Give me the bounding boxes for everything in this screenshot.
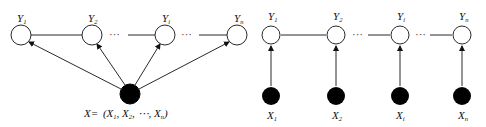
node-r-xn xyxy=(453,87,471,105)
ellipsis-2: ··· xyxy=(181,28,192,40)
label-r-xn: Xn xyxy=(457,109,468,122)
arrow-x-yi xyxy=(135,44,160,85)
arrow-x-yn xyxy=(139,42,229,89)
label-r-x1: X1 xyxy=(266,109,277,122)
label-r-y1: Y1 xyxy=(268,10,277,23)
node-r-x2 xyxy=(327,87,345,105)
label-yn: Yn xyxy=(234,12,243,25)
ellipsis-r-2: ··· xyxy=(415,28,426,40)
label-r-yi: Yi xyxy=(397,10,405,23)
node-r-y2 xyxy=(327,26,345,44)
node-x xyxy=(120,84,140,104)
arrow-x-y1 xyxy=(29,42,121,89)
node-r-xi xyxy=(391,87,409,105)
label-r-x2: X2 xyxy=(331,109,343,122)
node-r-y1 xyxy=(262,26,280,44)
node-yi xyxy=(155,25,175,45)
label-x-formula: X= (X1, X2, ⋯, Xn) xyxy=(83,107,168,120)
label-r-yn: Yn xyxy=(459,10,468,23)
label-r-xi: Xi xyxy=(395,109,405,122)
ellipsis-1: ··· xyxy=(109,28,120,40)
node-y2 xyxy=(82,25,102,45)
node-y1 xyxy=(11,25,31,45)
node-r-x1 xyxy=(262,87,280,105)
label-yi: Yi xyxy=(162,12,170,25)
node-r-yi xyxy=(391,26,409,44)
left-diagram: ··· ··· Y1 Y2 Yi Yn X= (X1, X2, ⋯, Xn) xyxy=(11,12,247,120)
label-y1: Y1 xyxy=(17,12,26,25)
crf-diagram: ··· ··· Y1 Y2 Yi Yn X= (X1, X2, ⋯, Xn) ·… xyxy=(0,0,486,127)
label-y2: Y2 xyxy=(88,12,98,25)
label-r-y2: Y2 xyxy=(333,10,343,23)
node-r-yn xyxy=(453,26,471,44)
right-diagram: ··· ··· Y1 Y2 Yi Yn X1 X2 Xi Xn xyxy=(262,10,471,122)
node-yn xyxy=(227,25,247,45)
ellipsis-r-1: ··· xyxy=(352,28,363,40)
